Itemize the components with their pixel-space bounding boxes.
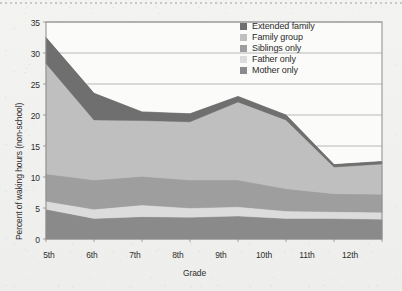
x-tick-label-8th: 8th <box>163 250 193 260</box>
legend-swatch-father-only <box>240 56 247 63</box>
y-tick-label-0: 0 <box>18 235 40 245</box>
y-tick-label-5: 5 <box>18 204 40 214</box>
legend-swatch-mother-only <box>240 67 247 74</box>
x-tick-label-11th: 11th <box>292 250 322 260</box>
y-tick-label-30: 30 <box>18 49 40 59</box>
y-tick-label-15: 15 <box>18 142 40 152</box>
x-tick-label-9th: 9th <box>206 250 236 260</box>
legend-label-father-only: Father only <box>252 54 296 64</box>
legend-label-family-group: Family group <box>252 32 303 42</box>
legend-label-extended-family: Extended family <box>252 21 315 31</box>
legend-label-mother-only: Mother only <box>252 65 298 75</box>
chart-canvas <box>0 0 402 291</box>
y-axis-title: Percent of waking hours (non-school) <box>14 103 24 240</box>
x-tick-label-7th: 7th <box>120 250 150 260</box>
x-tick-label-12th: 12th <box>335 250 365 260</box>
legend-swatch-extended-family <box>240 23 247 30</box>
y-tick-label-10: 10 <box>18 173 40 183</box>
y-tick-label-35: 35 <box>18 18 40 28</box>
legend-swatch-siblings-only <box>240 45 247 52</box>
x-tick-label-6th: 6th <box>77 250 107 260</box>
x-tick-label-10th: 10th <box>249 250 279 260</box>
x-tick-label-5th: 5th <box>34 250 64 260</box>
legend-label-siblings-only: Siblings only <box>252 43 301 53</box>
x-axis-title: Grade <box>183 268 206 278</box>
y-tick-label-20: 20 <box>18 111 40 121</box>
legend-swatch-family-group <box>240 34 247 41</box>
y-tick-label-25: 25 <box>18 80 40 90</box>
